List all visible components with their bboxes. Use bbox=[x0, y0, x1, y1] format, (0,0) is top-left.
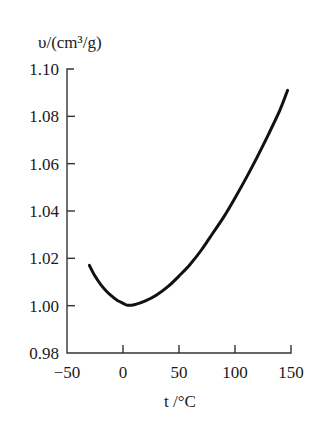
y-tick-label: 1.00 bbox=[29, 297, 59, 316]
chart: υ/(cm³/g) 0.981.001.021.041.061.081.10 −… bbox=[0, 0, 336, 426]
axis-frame bbox=[67, 69, 291, 353]
x-tick-label: 50 bbox=[171, 363, 188, 382]
x-tick-label: 100 bbox=[222, 363, 248, 382]
x-tick-label: −50 bbox=[54, 363, 81, 382]
x-tick-label: 0 bbox=[119, 363, 128, 382]
y-tick-label: 1.08 bbox=[29, 107, 59, 126]
y-tick-label: 1.04 bbox=[29, 202, 59, 221]
x-tick-label: 150 bbox=[278, 363, 304, 382]
axes bbox=[67, 69, 291, 353]
y-ticks: 0.981.001.021.041.061.081.10 bbox=[29, 60, 75, 363]
y-tick-label: 1.10 bbox=[29, 60, 59, 79]
x-axis-label: t /°C bbox=[164, 392, 196, 411]
y-axis-title: υ/(cm³/g) bbox=[38, 33, 102, 52]
curve-line bbox=[89, 90, 287, 305]
y-tick-label: 1.06 bbox=[29, 155, 59, 174]
y-tick-label: 1.02 bbox=[29, 249, 59, 268]
y-axis-label: υ/(cm³/g) bbox=[38, 33, 102, 52]
x-ticks: −50050100150 bbox=[54, 345, 304, 382]
data-series bbox=[89, 90, 287, 305]
y-tick-label: 0.98 bbox=[29, 344, 59, 363]
